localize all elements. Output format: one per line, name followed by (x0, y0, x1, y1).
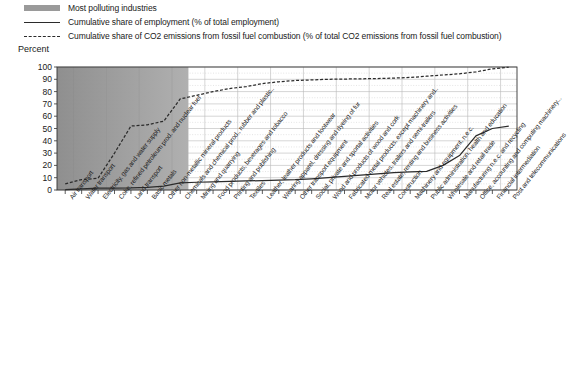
svg-text:100: 100 (38, 62, 52, 72)
svg-text:70: 70 (43, 99, 53, 109)
svg-text:80: 80 (43, 87, 53, 97)
svg-text:90: 90 (43, 74, 53, 84)
svg-text:60: 60 (43, 111, 53, 121)
svg-text:30: 30 (43, 148, 53, 158)
svg-text:20: 20 (43, 160, 53, 170)
shaded-band (57, 67, 188, 190)
svg-text:40: 40 (43, 136, 53, 146)
footnote (6, 370, 521, 378)
svg-text:50: 50 (43, 124, 53, 134)
svg-text:0: 0 (47, 185, 52, 195)
x-axis-ticks (65, 190, 509, 194)
y-axis-ticks: 0102030405060708090100 (38, 62, 57, 195)
svg-text:10: 10 (43, 173, 53, 183)
